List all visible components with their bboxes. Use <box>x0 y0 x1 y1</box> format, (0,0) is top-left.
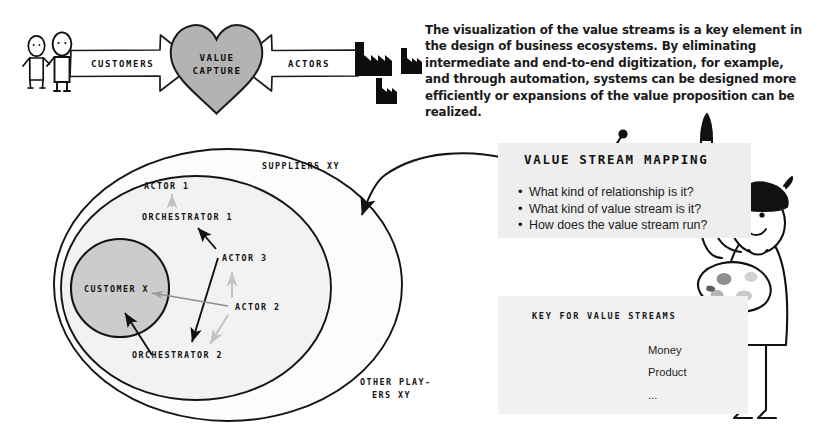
note-bullet-item: What kind of value stream is it? <box>518 201 743 218</box>
actors-label: ACTORS <box>288 59 330 69</box>
factory-icon-2 <box>401 48 422 74</box>
legend-label-other: ... <box>648 389 657 401</box>
factory-icon-1 <box>355 42 392 76</box>
customer-x-label: CUSTOMER X <box>84 284 149 294</box>
orchestrator-1-label: ORCHESTRATOR 1 <box>142 212 233 222</box>
intro-paragraph-text: The visualization of the value streams i… <box>425 22 806 120</box>
factory-icon-3 <box>376 78 397 104</box>
legend-label-product: Product <box>648 366 687 378</box>
note-bullet-item: What kind of relationship is it? <box>518 184 743 201</box>
orchestrator-2-label: ORCHESTRATOR 2 <box>132 350 223 360</box>
note-title: VALUE STREAM MAPPING <box>524 152 709 167</box>
actor-1-label: ACTOR 1 <box>144 181 189 191</box>
value-capture-label-line1: VALUE <box>181 51 253 64</box>
actor-3-label: ACTOR 3 <box>222 253 267 263</box>
person-icon-back <box>23 36 50 88</box>
factory-icons-group <box>355 42 422 104</box>
legend-label-money: Money <box>648 344 682 356</box>
customer-figures-group <box>23 32 76 91</box>
actor-2-label: ACTOR 2 <box>235 302 280 312</box>
intro-paragraph: The visualization of the value streams i… <box>425 22 806 120</box>
infographic-canvas: CUSTOMERS ACTORS VALUE CAPTURE The visua… <box>0 0 835 435</box>
legend-title: KEY FOR VALUE STREAMS <box>532 311 676 321</box>
other-players-label-line1: OTHER PLAY- <box>360 376 431 388</box>
value-capture-label-line2: CAPTURE <box>181 64 253 77</box>
suppliers-label: SUPPLIERS XY <box>262 161 340 171</box>
note-to-diagram-connector <box>362 153 505 215</box>
note-bullet-list: What kind of relationship is it? What ki… <box>518 184 743 234</box>
other-players-label-line2: ERS XY <box>372 389 411 401</box>
customers-label: CUSTOMERS <box>91 59 154 69</box>
note-bullet-item: How does the value stream run? <box>518 217 743 234</box>
